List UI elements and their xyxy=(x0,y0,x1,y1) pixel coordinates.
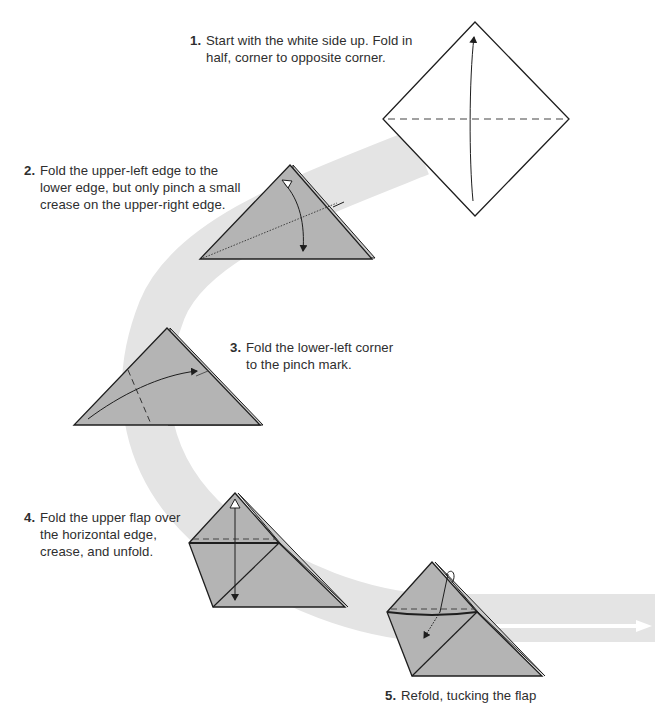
step-2-instruction: 2. Fold the upper-left edge to the lower… xyxy=(24,162,240,213)
step-line: Fold the upper flap over xyxy=(24,509,181,526)
step-number: 5. xyxy=(385,687,396,704)
step-line: to the pinch mark. xyxy=(230,356,393,373)
step-5-instruction: 5. Refold, tucking the flap xyxy=(385,687,536,704)
step-line: Fold the upper-left edge to the xyxy=(24,162,240,179)
step-number: 1. xyxy=(190,32,201,49)
step-line: Refold, tucking the flap xyxy=(385,687,536,704)
step-line: the horizontal edge, xyxy=(24,526,181,543)
step-line: crease on the upper-right edge. xyxy=(24,196,240,213)
step-number: 4. xyxy=(24,509,35,526)
step-line: crease, and unfold. xyxy=(24,543,181,560)
step-number: 3. xyxy=(230,339,241,356)
step-line: half, corner to opposite corner. xyxy=(190,49,412,66)
step-line: Start with the white side up. Fold in xyxy=(190,32,412,49)
step-4-instruction: 4. Fold the upper flap over the horizont… xyxy=(24,509,181,560)
step-number: 2. xyxy=(24,162,35,179)
step-3-instruction: 3. Fold the lower-left corner to the pin… xyxy=(230,339,393,373)
step-line: lower edge, but only pinch a small xyxy=(24,179,240,196)
step-line: Fold the lower-left corner xyxy=(230,339,393,356)
step-1-instruction: 1. Start with the white side up. Fold in… xyxy=(190,32,412,66)
